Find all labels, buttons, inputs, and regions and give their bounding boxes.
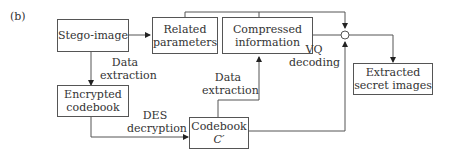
edge-label-line: DES	[127, 109, 183, 122]
encrypted-codebook-line1: Encrypted	[64, 88, 122, 101]
extracted-secret-images-node: Extracted secret images	[353, 63, 433, 95]
edge-label-des-decryption: DES decryption	[127, 109, 183, 135]
encrypted-codebook-node: Encrypted codebook	[57, 85, 129, 117]
edge-label-line: Data	[202, 71, 254, 84]
edge-label-line: decryption	[127, 122, 183, 135]
edge-label-vq-decoding: VQ decoding	[289, 43, 339, 69]
codebook-line2: C′	[214, 133, 225, 146]
codebook-c-prime-node: Codebook C′	[189, 117, 249, 149]
edge-label-line: Data	[100, 56, 150, 69]
encrypted-codebook-line2: codebook	[66, 101, 119, 114]
related-parameters-line1: Related	[164, 23, 207, 36]
extracted-line1: Extracted	[366, 66, 421, 79]
related-parameters-node: Related parameters	[152, 17, 218, 54]
edge-label-line: extraction	[202, 84, 254, 97]
edge-label-data-extraction-mid: Data extraction	[202, 71, 254, 97]
related-parameters-line2: parameters	[153, 36, 217, 49]
stego-image-node: Stego-image	[57, 19, 129, 52]
edge-label-data-extraction-left: Data extraction	[100, 56, 150, 82]
edge-label-line: extraction	[100, 69, 150, 82]
compressed-information-line1: Compressed	[233, 23, 302, 36]
extracted-line2: secret images	[354, 79, 432, 92]
edge-label-line: decoding	[289, 56, 339, 69]
codebook-line1: Codebook	[191, 120, 247, 133]
panel-label: (b)	[10, 10, 26, 23]
stego-image-label: Stego-image	[58, 29, 128, 42]
edge-label-line: VQ	[289, 43, 339, 56]
